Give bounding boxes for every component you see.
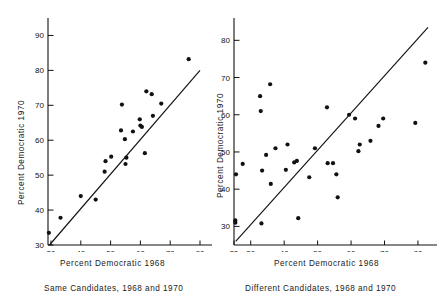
- y-tick-label: 30: [221, 222, 230, 231]
- data-point: [356, 149, 360, 153]
- data-point: [284, 168, 288, 172]
- data-point: [58, 216, 62, 220]
- data-point: [264, 153, 268, 157]
- x-tick-label: 50: [106, 249, 115, 252]
- data-point: [259, 221, 263, 225]
- y-tick-label: 60: [35, 136, 44, 145]
- data-point: [326, 161, 330, 165]
- scatter-plot-different-candidates: 25304050607080304050607080: [212, 0, 437, 252]
- data-point: [241, 162, 245, 166]
- y-tick-label: 80: [35, 66, 44, 75]
- data-point: [150, 92, 154, 96]
- data-point: [159, 101, 163, 105]
- y-tick-label: 80: [221, 36, 230, 45]
- data-point: [138, 117, 142, 121]
- x-tick-label: 60: [136, 249, 145, 252]
- data-point: [307, 175, 311, 179]
- data-point: [47, 231, 51, 235]
- y-tick-label: 90: [35, 31, 44, 40]
- data-point: [296, 216, 300, 220]
- data-point: [358, 142, 362, 146]
- x-tick-label: 60: [347, 249, 356, 252]
- y-tick-label: 70: [35, 101, 44, 110]
- x-tick-label: 70: [380, 249, 389, 252]
- data-point: [103, 170, 107, 174]
- panel-different-candidates: 25304050607080304050607080 Percent Democ…: [212, 0, 437, 308]
- scatter-plot-same-candidates: 30405060708030405060708090: [0, 0, 212, 252]
- data-point: [79, 194, 83, 198]
- data-point: [273, 146, 277, 150]
- y-axis-title-right: Percent Democratic 1970: [216, 93, 225, 198]
- data-point: [334, 172, 338, 176]
- data-point: [109, 155, 113, 159]
- y-tick-label: 40: [35, 206, 44, 215]
- panel-caption-right: Different Candidates, 1968 and 1970: [245, 284, 396, 293]
- data-point: [336, 195, 340, 199]
- y-tick-label: 30: [35, 241, 44, 250]
- figure-container: 30405060708030405060708090 Percent Democ…: [0, 0, 437, 308]
- data-point: [120, 103, 124, 107]
- x-tick-label: 30: [47, 249, 56, 252]
- data-point: [331, 161, 335, 165]
- data-point: [151, 114, 155, 118]
- reference-line-identity: [236, 27, 428, 241]
- data-point: [258, 94, 262, 98]
- x-tick-label: 40: [280, 249, 289, 252]
- x-tick-label: 40: [76, 249, 85, 252]
- data-point: [413, 121, 417, 125]
- data-point: [423, 61, 427, 65]
- data-point: [144, 89, 148, 93]
- data-point: [268, 82, 272, 86]
- data-point: [285, 142, 289, 146]
- x-tick-label: 30: [246, 249, 255, 252]
- y-tick-label: 70: [221, 74, 230, 83]
- data-point: [123, 162, 127, 166]
- data-point: [376, 124, 380, 128]
- data-point: [123, 137, 127, 141]
- x-tick-label: 25: [230, 249, 239, 252]
- x-tick-label: 80: [196, 249, 205, 252]
- x-tick-label: 80: [414, 249, 423, 252]
- data-point: [187, 57, 191, 61]
- data-point: [94, 198, 98, 202]
- x-tick-label: 50: [313, 249, 322, 252]
- data-point: [259, 109, 263, 113]
- panel-same-candidates: 30405060708030405060708090 Percent Democ…: [0, 0, 212, 308]
- data-point: [260, 168, 264, 172]
- data-point: [124, 156, 128, 160]
- data-point: [234, 172, 238, 176]
- data-point: [381, 116, 385, 120]
- data-point: [325, 105, 329, 109]
- x-tick-label: 70: [166, 249, 175, 252]
- data-point: [119, 128, 123, 132]
- data-point: [313, 146, 317, 150]
- panel-caption-left: Same Candidates, 1968 and 1970: [44, 284, 183, 293]
- y-tick-label: 50: [35, 171, 44, 180]
- data-point: [131, 129, 135, 133]
- data-point: [295, 159, 299, 163]
- data-point: [103, 159, 107, 163]
- data-point: [347, 113, 351, 117]
- data-point: [143, 151, 147, 155]
- data-point: [368, 139, 372, 143]
- data-point: [233, 218, 237, 222]
- x-axis-title-left: Percent Democratic 1968: [60, 259, 165, 268]
- data-point: [140, 125, 144, 129]
- data-point: [353, 116, 357, 120]
- data-point: [269, 182, 273, 186]
- x-axis-title-right: Percent Democratic 1968: [274, 259, 379, 268]
- y-axis-title-left: Percent Democratic 1970: [17, 100, 26, 205]
